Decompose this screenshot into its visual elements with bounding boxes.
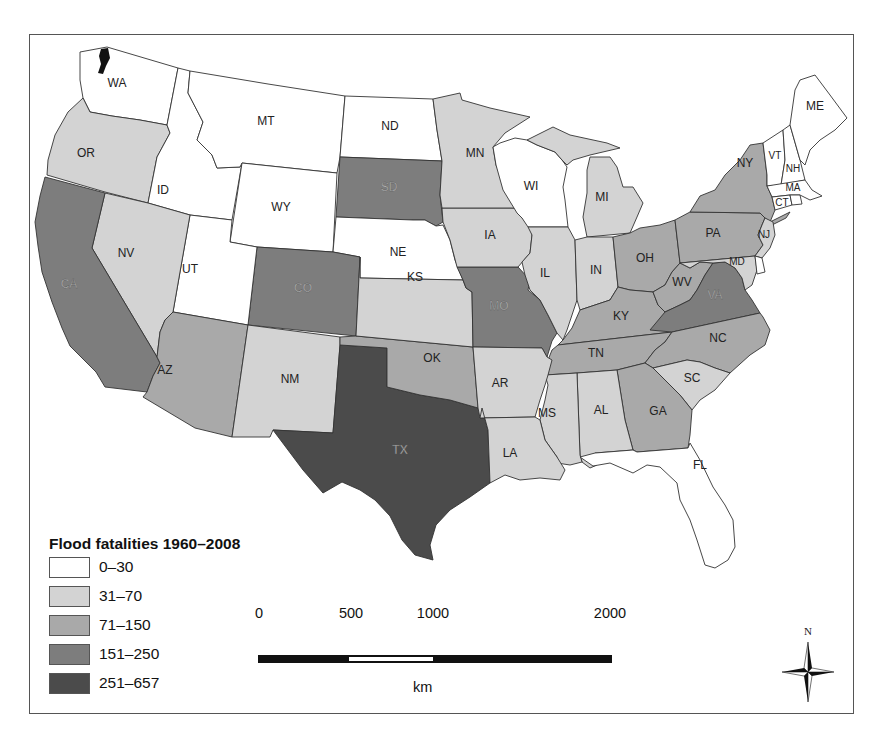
legend-label: 0–30 xyxy=(99,558,133,576)
label-la: LA xyxy=(503,446,518,460)
legend-label: 31–70 xyxy=(99,587,142,605)
label-me: ME xyxy=(806,99,824,113)
label-ga: GA xyxy=(649,404,666,418)
north-arrow: N xyxy=(782,625,834,702)
label-wy: WY xyxy=(271,200,290,214)
legend-label: 251–657 xyxy=(99,674,159,692)
label-ne: NE xyxy=(390,245,407,259)
scale-bar-segment xyxy=(349,657,433,661)
legend-swatch xyxy=(49,673,90,694)
label-in: IN xyxy=(590,263,602,277)
label-ct: CT xyxy=(775,197,788,208)
label-nv: NV xyxy=(118,246,135,260)
legend-item: 151–250 xyxy=(49,643,159,665)
scale-bar-graphic xyxy=(258,655,612,663)
legend-label: 151–250 xyxy=(99,645,159,663)
state-de xyxy=(755,256,765,274)
label-nj: NJ xyxy=(758,229,770,240)
label-nd: ND xyxy=(381,119,399,133)
legend-label: 71–150 xyxy=(99,616,151,634)
legend-swatch xyxy=(49,615,90,636)
label-sd: SD xyxy=(381,180,398,194)
state-fl xyxy=(580,443,735,568)
legend-item: 251–657 xyxy=(49,672,159,694)
legend-item: 71–150 xyxy=(49,614,151,636)
legend-item: 0–30 xyxy=(49,556,133,578)
scale-tick-label: 2000 xyxy=(594,605,626,621)
label-mt: MT xyxy=(257,114,275,128)
label-ut: UT xyxy=(182,262,199,276)
label-ok: OK xyxy=(423,351,440,365)
label-al: AL xyxy=(594,403,609,417)
north-label: N xyxy=(804,625,812,637)
label-nm: NM xyxy=(281,372,300,386)
legend-item: 31–70 xyxy=(49,585,142,607)
label-ca: CA xyxy=(61,277,78,291)
label-mn: MN xyxy=(466,146,485,160)
scale-unit: km xyxy=(413,679,432,695)
state-me xyxy=(790,75,847,165)
label-mo: MO xyxy=(489,299,508,313)
legend-swatch xyxy=(49,644,90,665)
label-mi: MI xyxy=(595,190,608,204)
label-pa: PA xyxy=(705,226,720,240)
label-tx: TX xyxy=(392,443,407,457)
label-ny: NY xyxy=(737,156,754,170)
label-az: AZ xyxy=(157,363,172,377)
scale-tick-label: 1000 xyxy=(417,605,449,621)
label-oh: OH xyxy=(636,251,654,265)
label-nc: NC xyxy=(709,331,727,345)
label-or: OR xyxy=(77,146,95,160)
label-id: ID xyxy=(157,183,169,197)
label-ma: MA xyxy=(786,182,801,193)
label-vt: VT xyxy=(769,150,782,161)
label-tn: TN xyxy=(588,346,604,360)
legend-swatch xyxy=(49,557,90,578)
state-mi-lower xyxy=(583,157,643,237)
scale-tick-label: 500 xyxy=(339,605,363,621)
scale-tick-label: 0 xyxy=(255,605,263,621)
label-ia: IA xyxy=(484,228,495,242)
legend-title: Flood fatalities 1960–2008 xyxy=(49,535,240,553)
label-il: IL xyxy=(540,266,550,280)
label-md: MD xyxy=(729,256,745,267)
label-wi: WI xyxy=(524,179,539,193)
label-fl: FL xyxy=(693,458,707,472)
label-ky: KY xyxy=(613,309,629,323)
legend-swatch xyxy=(49,586,90,607)
label-sc: SC xyxy=(684,371,701,385)
label-co: CO xyxy=(294,281,312,295)
label-ms: MS xyxy=(538,406,556,420)
label-nh: NH xyxy=(786,163,800,174)
states-layer xyxy=(35,47,847,568)
label-va: VA xyxy=(707,288,722,302)
label-wa: WA xyxy=(108,76,127,90)
state-ri xyxy=(790,195,802,205)
label-ar: AR xyxy=(492,376,509,390)
label-ks: KS xyxy=(407,270,423,284)
label-wv: WV xyxy=(672,275,691,289)
